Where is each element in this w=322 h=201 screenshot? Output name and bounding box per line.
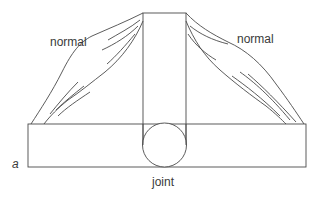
muscle-left xyxy=(31,13,143,124)
muscle-right-fiber xyxy=(190,26,228,44)
joint-label: joint xyxy=(152,176,174,188)
muscle-right-fiber xyxy=(232,76,280,116)
muscle-right-fiber xyxy=(240,72,290,120)
muscle-right xyxy=(186,13,304,124)
panel-label: a xyxy=(12,158,19,170)
muscle-right-outline-upper xyxy=(186,13,304,124)
muscle-right-fiber xyxy=(188,34,216,60)
joint-muscle-diagram: normal normal joint a xyxy=(0,0,322,201)
joint-circle xyxy=(143,123,187,167)
muscle-left-label: normal xyxy=(50,36,87,48)
diagram-canvas xyxy=(0,0,322,201)
muscle-right-label: normal xyxy=(237,33,274,45)
